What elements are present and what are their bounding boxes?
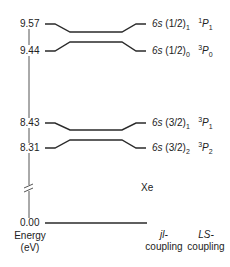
jl-j: 2 [186, 148, 190, 155]
jl-coupling-label-line1: jl- [144, 230, 184, 240]
jl-j: 1 [186, 123, 190, 130]
tick-label-9.57: 9.57 [20, 19, 39, 29]
ls-coupling-label-line1: LS- [186, 230, 226, 240]
jl-config: 6s [152, 18, 163, 29]
ls-term: P [202, 117, 209, 128]
level-line-9.44 [45, 42, 146, 51]
jl-j: 1 [186, 24, 190, 31]
jl-core: (3/2) [165, 142, 186, 153]
ls-coupling-label-line2: coupling [186, 242, 226, 252]
jl-core: (1/2) [165, 18, 186, 29]
ls-term: P [202, 142, 209, 153]
jl-coupling-label-line2: coupling [144, 242, 184, 252]
level-line-8.43 [45, 123, 146, 130]
ls-j: 1 [209, 123, 213, 130]
level-label-8.43: 6s (3/2)1 3P1 [152, 118, 213, 128]
level-line-9.57 [45, 24, 146, 32]
ls-j: 2 [209, 148, 213, 155]
axis-title-energy: Energy [14, 231, 46, 241]
jl-config: 6s [152, 117, 163, 128]
jl-j: 0 [186, 51, 190, 58]
tick-label-8.43: 8.43 [20, 118, 39, 128]
jl-config: 6s [152, 45, 163, 56]
level-label-9.57: 6s (1/2)1 1P1 [152, 19, 213, 29]
ls-j: 0 [209, 51, 213, 58]
jl-core: (1/2) [165, 45, 186, 56]
jl-core: (3/2) [165, 117, 186, 128]
axis-title-unit: (eV) [14, 243, 46, 253]
level-label-8.31: 6s (3/2)2 3P2 [152, 143, 213, 153]
ls-term: P [202, 18, 209, 29]
tick-label-0.00: 0.00 [20, 218, 39, 228]
tick-label-8.31: 8.31 [20, 143, 39, 153]
element-label: Xe [141, 183, 153, 193]
ls-term: P [202, 45, 209, 56]
ls-j: 1 [209, 24, 213, 31]
jl-config: 6s [152, 142, 163, 153]
level-label-9.44: 6s (1/2)0 3P0 [152, 46, 213, 56]
level-line-8.31 [45, 140, 146, 148]
tick-label-9.44: 9.44 [20, 46, 39, 56]
